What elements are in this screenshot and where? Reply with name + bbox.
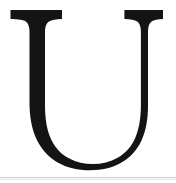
letter-u-glyph — [0, 0, 176, 183]
glyph-specimen-page: Large black serif capital letter U on a … — [0, 0, 176, 183]
page-background — [0, 0, 176, 183]
